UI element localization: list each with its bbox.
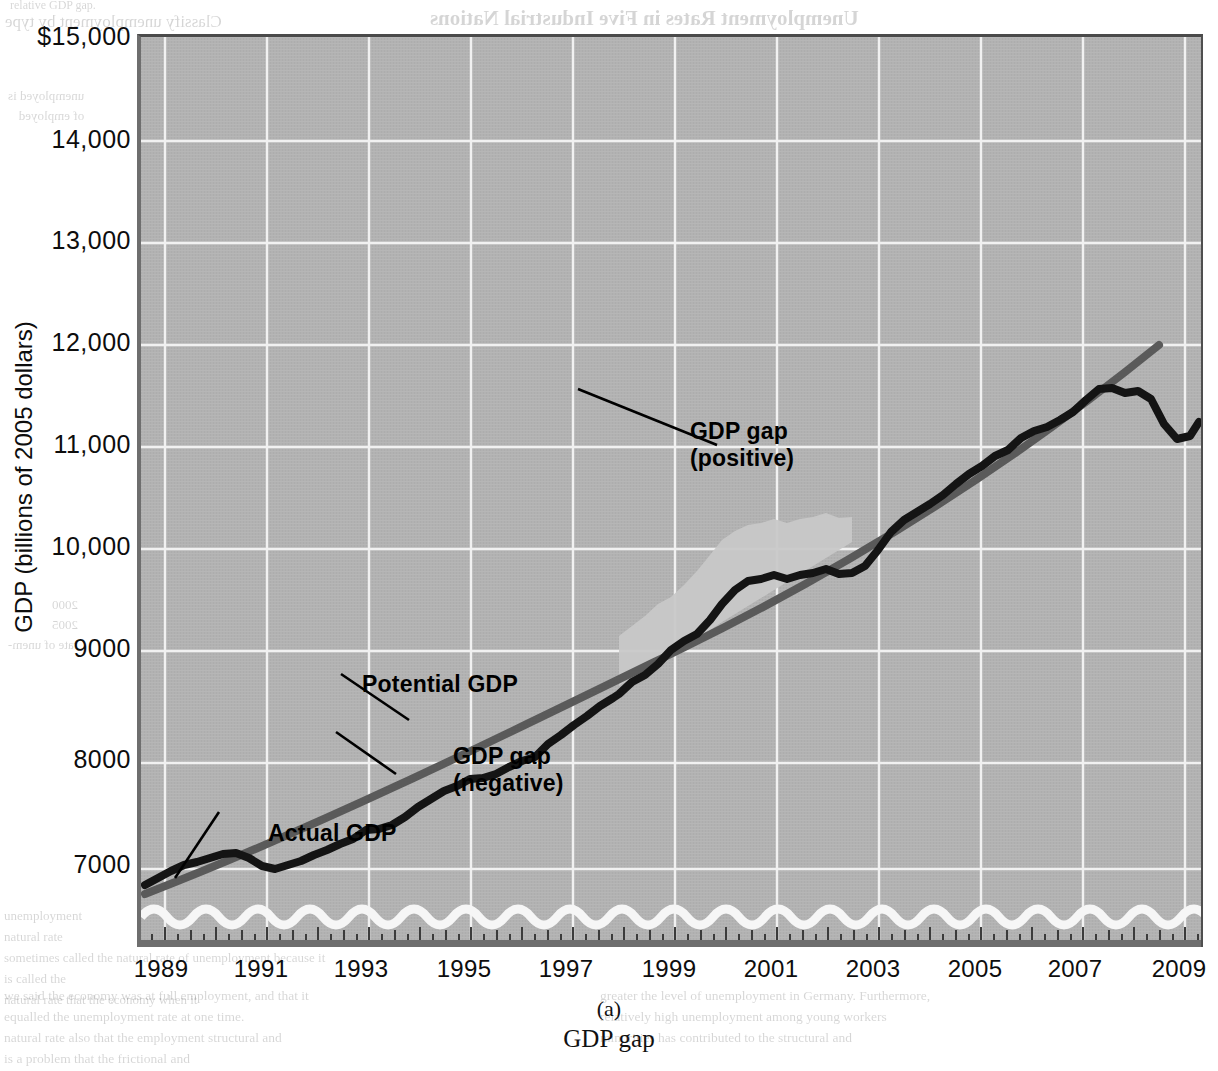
annotation-actual-gdp-label: Actual GDP bbox=[268, 820, 397, 846]
y-tick-label-15000: $15,000 bbox=[0, 22, 131, 51]
x-tick-label-2001: 2001 bbox=[726, 955, 816, 983]
x-tick-label-1995: 1995 bbox=[419, 955, 509, 983]
x-tick-label-2005: 2005 bbox=[930, 955, 1020, 983]
figure-caption: (a) GDP gap bbox=[0, 996, 1218, 1054]
x-tick-label-1999: 1999 bbox=[624, 955, 714, 983]
x-tick-label-2009: 2009 bbox=[1134, 955, 1218, 983]
x-tick-label-2007: 2007 bbox=[1030, 955, 1120, 983]
annotation-gap-positive-line2: (positive) bbox=[690, 445, 794, 472]
annotation-gap-negative-line1: GDP gap bbox=[453, 743, 564, 770]
annotation-potential-gdp: Potential GDP bbox=[362, 671, 518, 698]
y-tick-label-13000: 13,000 bbox=[0, 226, 131, 255]
x-tick-label-2003: 2003 bbox=[828, 955, 918, 983]
x-tick-label-1989: 1989 bbox=[116, 955, 206, 983]
annotation-gdp-gap-negative: GDP gap (negative) bbox=[453, 743, 564, 797]
y-tick-label-9000: 9000 bbox=[0, 634, 131, 663]
annotation-potential-gdp-label: Potential GDP bbox=[362, 671, 518, 697]
caption-letter: (a) bbox=[0, 996, 1218, 1022]
x-tick-label-1991: 1991 bbox=[216, 955, 306, 983]
y-tick-label-7000: 7000 bbox=[0, 850, 131, 879]
y-tick-label-14000: 14,000 bbox=[0, 125, 131, 154]
y-tick-label-12000: 12,000 bbox=[0, 328, 131, 357]
y-tick-label-8000: 8000 bbox=[0, 745, 131, 774]
annotation-gap-positive-line1: GDP gap bbox=[690, 418, 794, 445]
y-tick-label-10000: 10,000 bbox=[0, 532, 131, 561]
annotation-gdp-gap-positive: GDP gap (positive) bbox=[690, 418, 794, 472]
y-tick-label-11000: 11,000 bbox=[0, 430, 131, 459]
annotation-gap-negative-line2: (negative) bbox=[453, 770, 564, 797]
caption-text: GDP gap bbox=[0, 1024, 1218, 1054]
plot-area: Potential GDP Actual GDP GDP gap (negati… bbox=[137, 34, 1203, 947]
x-axis-line bbox=[141, 940, 1201, 947]
y-axis-title: GDP (billions of 2005 dollars) bbox=[10, 307, 38, 647]
x-tick-label-1997: 1997 bbox=[521, 955, 611, 983]
annotation-actual-gdp: Actual GDP bbox=[268, 820, 397, 847]
plot-background bbox=[141, 37, 1201, 947]
gdp-gap-figure: GDP (billions of 2005 dollars) $15,000 1… bbox=[0, 0, 1218, 1071]
x-tick-label-1993: 1993 bbox=[316, 955, 406, 983]
chart-canvas bbox=[141, 37, 1201, 947]
